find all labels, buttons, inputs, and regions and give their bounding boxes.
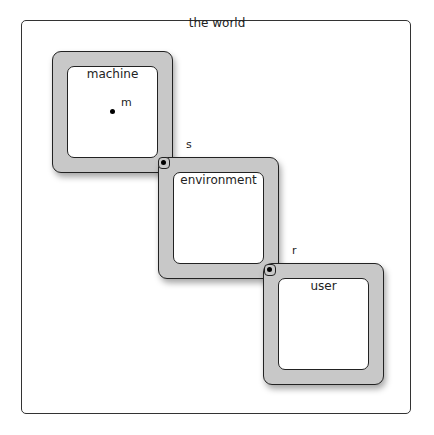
phenomenon-r-label: r	[292, 244, 297, 257]
phenomenon-s-label: s	[186, 138, 192, 151]
user-label: user	[279, 279, 368, 293]
world-title: the world	[0, 16, 434, 30]
shared-phenomenon-s	[158, 157, 170, 169]
environment-inner: environment	[173, 172, 264, 264]
phenomenon-m-dot	[110, 109, 115, 114]
user-inner: user	[278, 278, 369, 370]
environment-label: environment	[174, 173, 263, 187]
machine-label: machine	[68, 67, 157, 81]
phenomenon-m-label: m	[121, 96, 132, 109]
user-domain: user	[263, 263, 384, 385]
phenomenon-r-dot	[267, 267, 272, 272]
phenomenon-s-dot	[161, 160, 166, 165]
shared-phenomenon-r	[264, 264, 276, 276]
environment-domain: environment	[158, 157, 279, 279]
